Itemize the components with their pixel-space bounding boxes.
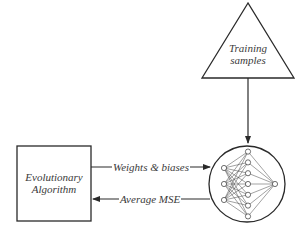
neuron-node bbox=[245, 160, 250, 165]
neuron-node bbox=[245, 203, 250, 208]
ea-label-line2: Algorithm bbox=[17, 183, 91, 195]
neuron-node bbox=[245, 192, 250, 197]
training-label-line2: samples bbox=[218, 54, 278, 66]
training-samples-label: Training samples bbox=[218, 42, 278, 66]
neuron-node bbox=[245, 171, 250, 176]
ea-label-line1: Evolutionary bbox=[17, 171, 91, 183]
neuron-node bbox=[272, 181, 277, 186]
neuron-node bbox=[245, 214, 250, 219]
neuron-node bbox=[245, 149, 250, 154]
training-samples-triangle bbox=[202, 3, 294, 78]
neuron-node bbox=[245, 181, 250, 186]
weights-biases-label: Weights & biases bbox=[112, 161, 190, 173]
diagram-canvas: Training samples Evolutionary Algorithm … bbox=[0, 0, 308, 235]
neuron-node bbox=[221, 181, 226, 186]
evolutionary-algorithm-label: Evolutionary Algorithm bbox=[17, 171, 91, 195]
neuron-node bbox=[221, 197, 226, 202]
neuron-node bbox=[221, 165, 226, 170]
training-label-line1: Training bbox=[218, 42, 278, 54]
average-mse-label: Average MSE bbox=[119, 193, 181, 205]
